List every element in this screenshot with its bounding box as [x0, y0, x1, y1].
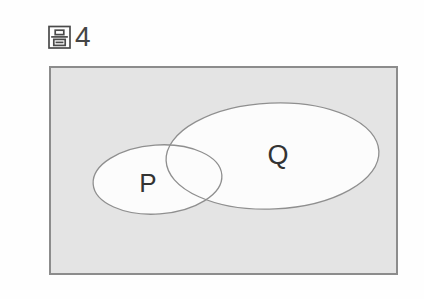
scanned-figure-page: 4 P Q [0, 0, 424, 299]
set-q-label: Q [267, 140, 288, 170]
venn-diagram: P Q [0, 0, 424, 299]
set-p-label: P [139, 168, 156, 198]
